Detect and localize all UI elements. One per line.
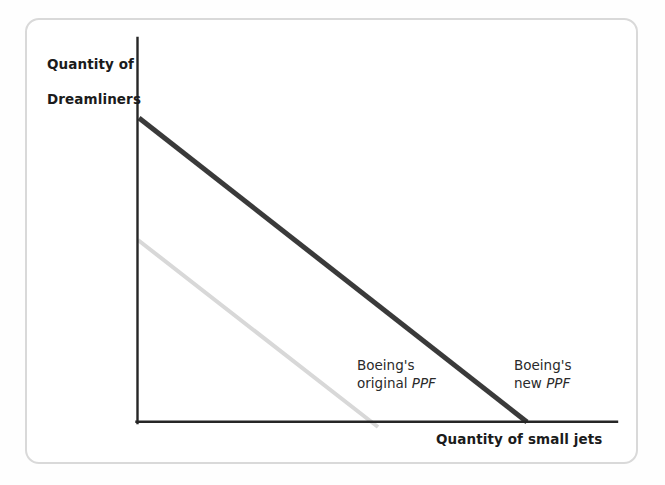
- annotation-new-line1: Boeing's: [514, 357, 571, 373]
- annotation-new-prefix: new: [514, 375, 546, 391]
- y-axis-title-line1: Quantity of: [47, 56, 134, 72]
- ppf-chart: Quantity of Dreamliners Quantity of smal…: [0, 0, 665, 485]
- annotation-original-line1: Boeing's: [357, 357, 414, 373]
- annotation-original-line2: original PPF: [357, 375, 467, 393]
- annotation-new-ppf-abbrev: PPF: [546, 375, 570, 391]
- ppf-line-original: [138, 240, 378, 427]
- annotation-new-line2: new PPF: [514, 375, 614, 393]
- x-axis-title: Quantity of small jets: [436, 431, 636, 448]
- annotation-original-prefix: original: [357, 375, 412, 391]
- annotation-original-ppf: Boeing's original PPF: [357, 357, 467, 393]
- ppf-line-new: [139, 118, 527, 422]
- y-axis-title-line2: Dreamliners: [47, 91, 141, 107]
- annotation-new-ppf: Boeing's new PPF: [514, 357, 614, 393]
- annotation-original-ppf-abbrev: PPF: [412, 375, 436, 391]
- y-axis-title: Quantity of Dreamliners: [47, 39, 157, 108]
